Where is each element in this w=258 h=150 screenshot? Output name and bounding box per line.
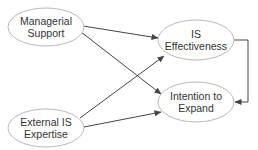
label-line: Expand [158, 102, 234, 114]
label-line: IS [158, 28, 234, 40]
edge-managerial-support-to-is-effectiveness [83, 26, 158, 38]
edge-is-effectiveness-to-intention-to-expand [233, 40, 248, 102]
label-line: Effectiveness [158, 40, 234, 52]
label-line: Managerial [8, 15, 84, 27]
label-intention-to-expand: Intention to Expand [158, 90, 234, 114]
edge-external-is-expertise-to-intention-to-expand [84, 112, 161, 127]
label-is-effectiveness: IS Effectiveness [158, 28, 234, 52]
label-external-is-expertise: External IS Expertise [8, 116, 84, 140]
label-managerial-support: Managerial Support [8, 15, 84, 39]
label-line: External IS [8, 116, 84, 128]
label-line: Support [8, 27, 84, 39]
edge-managerial-support-to-intention-to-expand [81, 32, 161, 94]
label-line: Intention to [158, 90, 234, 102]
label-line: Expertise [8, 128, 84, 140]
